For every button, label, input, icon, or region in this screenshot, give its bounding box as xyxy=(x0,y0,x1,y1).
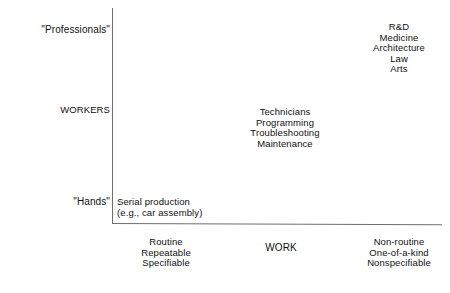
cluster-professional-line-5: Arts xyxy=(373,64,425,75)
cluster-professional-occupations: R&D Medicine Architecture Law Arts xyxy=(373,22,425,75)
axis-title-work: WORK xyxy=(265,243,297,254)
axis-label-nonroutine-line-1: Non-routine xyxy=(367,237,431,248)
cluster-professional-line-1: R&D xyxy=(373,22,425,33)
axis-label-nonroutine-work: Non-routine One-of-a-kind Nonspecifiable xyxy=(367,237,431,269)
work-axis-line xyxy=(112,223,442,225)
cluster-technical-occupations: Technicians Programming Troubleshooting … xyxy=(250,107,319,149)
axis-label-hands: "Hands" xyxy=(73,197,110,208)
cluster-technical-line-4: Maintenance xyxy=(250,139,319,150)
axis-label-routine-work: Routine Repeatable Specifiable xyxy=(141,237,191,269)
cluster-serial-production: Serial production (e.g., car assembly) xyxy=(117,197,202,218)
cluster-serial-production-line-2: (e.g., car assembly) xyxy=(117,208,202,219)
work-workers-matrix-diagram: "Professionals" WORKERS "Hands" Routine … xyxy=(0,0,450,293)
axis-label-routine-line-3: Specifiable xyxy=(141,258,191,269)
cluster-serial-production-line-1: Serial production xyxy=(117,197,202,208)
workers-axis-line xyxy=(112,8,113,224)
axis-label-routine-line-1: Routine xyxy=(141,237,191,248)
cluster-technical-line-1: Technicians xyxy=(250,107,319,118)
axis-title-workers: WORKERS xyxy=(60,105,110,116)
axis-label-professionals: "Professionals" xyxy=(41,25,110,36)
axis-label-nonroutine-line-3: Nonspecifiable xyxy=(367,258,431,269)
